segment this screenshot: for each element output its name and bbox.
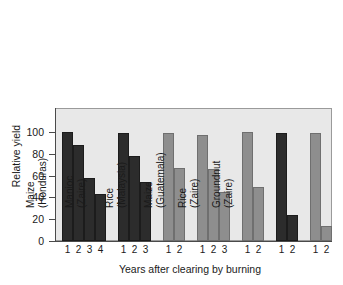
crop-label-name: Groundnut: [211, 161, 222, 208]
crop-label-location: (Zaire): [223, 161, 235, 208]
bar-chart-figure: 020406080100 123412312123121212 Cotton(S…: [0, 0, 343, 285]
x-axis-tick-label: 2: [251, 244, 266, 255]
x-axis-tick-label: 2: [285, 244, 300, 255]
x-axis-line: [55, 241, 332, 242]
bar: [287, 215, 298, 241]
x-axis-tick-label: 2: [319, 244, 334, 255]
x-axis-title: Years after clearing by burning: [40, 263, 340, 275]
x-axis-tick-label: 3: [217, 244, 232, 255]
y-axis-title: Relative yield: [10, 111, 22, 201]
crop-label-name: Rice: [104, 188, 115, 208]
crop-label-location: (Malaysia): [115, 162, 127, 208]
bar: [321, 226, 332, 241]
y-axis-tick-label: 20: [0, 214, 44, 224]
crop-label-location: (Zaire): [76, 176, 88, 208]
crop-label-location: (Guatemala): [155, 152, 167, 208]
crop-label-name: Maize: [25, 181, 36, 208]
x-axis-tick-label: 2: [172, 244, 187, 255]
crop-label-location: (Honduras): [36, 158, 48, 208]
crop-label: Groundnut(Zaire): [211, 161, 315, 208]
y-axis-tick: [49, 241, 55, 242]
crop-label-name: Manioc: [64, 176, 75, 208]
y-axis-tick-label: 0: [0, 236, 44, 246]
y-axis-tick: [49, 219, 55, 220]
x-axis-tick-label: 4: [93, 244, 108, 255]
crop-label-location: (Zaire): [189, 179, 201, 208]
crop-label-name: Maize: [143, 181, 154, 208]
crop-label-name: Rice: [177, 188, 188, 208]
x-axis-tick-label: 3: [138, 244, 153, 255]
